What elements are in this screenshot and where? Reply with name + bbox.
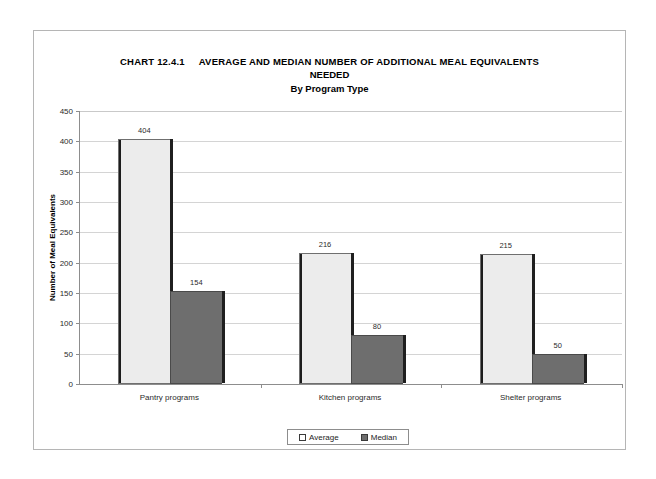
plot-area: 450400350300250200150100500 404154216802…	[79, 111, 622, 385]
bar-group-bars: 404154	[80, 111, 261, 384]
legend-label-median: Median	[371, 433, 397, 442]
x-axis-label-kitchen: Kitchen programs	[260, 393, 441, 402]
bar-group-bars: 21550	[441, 111, 622, 384]
y-axis-tick-label: 300	[60, 198, 73, 207]
bar-median-pantry[interactable]	[170, 291, 222, 384]
bar-value-label: 80	[373, 322, 381, 331]
bar-average-pantry[interactable]	[118, 139, 170, 384]
y-axis-tick-label: 0	[69, 380, 73, 389]
bar-value-label: 215	[499, 241, 512, 250]
chart-legend: Average Median	[287, 429, 409, 445]
chart-title-main: AVERAGE AND MEDIAN NUMBER OF ADDITIONAL …	[199, 56, 539, 67]
bar-group: 21680	[261, 111, 442, 384]
x-axis-label-pantry: Pantry programs	[79, 393, 260, 402]
bar-slot: 404	[118, 111, 170, 384]
y-axis-tick-label: 100	[60, 319, 73, 328]
legend-item-median[interactable]: Median	[361, 433, 397, 442]
chart-subtitle: By Program Type	[34, 82, 625, 96]
bar-slot: 154	[170, 111, 222, 384]
y-axis-tick-label: 50	[64, 349, 73, 358]
bar-group: 21550	[441, 111, 622, 384]
x-axis-tick-end	[622, 384, 623, 388]
bar-value-label: 50	[553, 341, 561, 350]
bar-value-label: 404	[138, 126, 151, 135]
y-axis-tick	[76, 384, 80, 385]
bar-median-kitchen[interactable]	[351, 335, 403, 384]
x-axis-tick	[441, 384, 442, 388]
x-axis-label-shelter: Shelter programs	[440, 393, 621, 402]
bar-median-shelter[interactable]	[532, 354, 584, 384]
y-axis-title-label: Number of Meal Equivalents	[49, 194, 58, 301]
bar-group: 404154	[80, 111, 261, 384]
bar-group-bars: 21680	[261, 111, 442, 384]
bar-slot: 215	[480, 111, 532, 384]
bar-slot: 216	[299, 111, 351, 384]
y-axis-title: Number of Meal Equivalents	[46, 111, 60, 384]
chart-title-block: CHART 12.4.1AVERAGE AND MEDIAN NUMBER OF…	[34, 55, 625, 96]
y-axis-tick-label: 350	[60, 167, 73, 176]
bar-slot: 80	[351, 111, 403, 384]
legend-swatch-average-icon	[299, 434, 306, 441]
legend-item-average[interactable]: Average	[299, 433, 339, 442]
y-axis-tick-label: 450	[60, 107, 73, 116]
bar-value-label: 154	[190, 278, 203, 287]
bar-value-label: 216	[319, 240, 332, 249]
bar-average-shelter[interactable]	[480, 254, 532, 384]
bar-average-kitchen[interactable]	[299, 253, 351, 384]
chart-number: CHART 12.4.1	[120, 56, 185, 67]
legend-label-average: Average	[309, 433, 339, 442]
chart-title-line-2: NEEDED	[34, 68, 625, 81]
y-axis-tick-label: 400	[60, 137, 73, 146]
x-axis-tick	[261, 384, 262, 388]
chart-title-line-1: CHART 12.4.1AVERAGE AND MEDIAN NUMBER OF…	[34, 55, 625, 68]
y-axis-tick-label: 200	[60, 258, 73, 267]
bar-slot: 50	[532, 111, 584, 384]
chart-frame: CHART 12.4.1AVERAGE AND MEDIAN NUMBER OF…	[33, 30, 626, 450]
y-axis-tick-label: 150	[60, 289, 73, 298]
y-axis-tick-label: 250	[60, 228, 73, 237]
legend-swatch-median-icon	[361, 434, 368, 441]
